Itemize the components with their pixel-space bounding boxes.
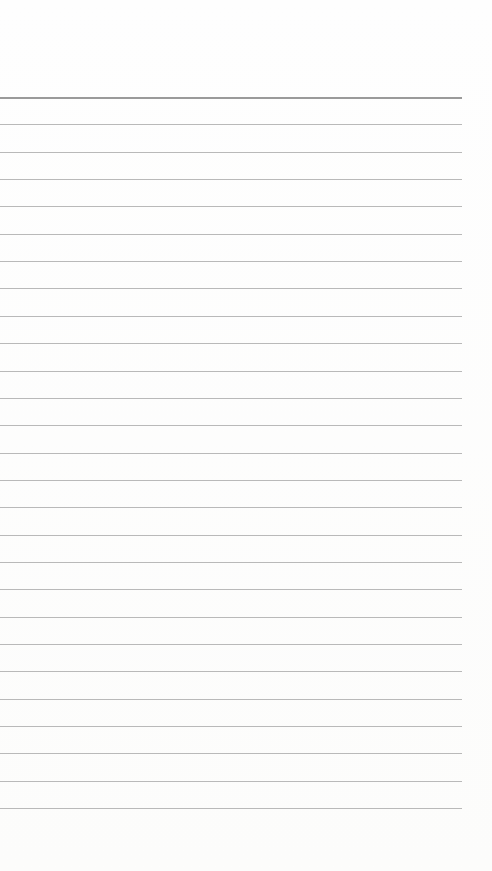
ruled-line	[0, 644, 462, 645]
ruled-line	[0, 371, 462, 372]
ruled-line	[0, 480, 462, 481]
ruled-line	[0, 808, 462, 809]
ruled-line	[0, 671, 462, 672]
ruled-line	[0, 781, 462, 782]
ruled-line	[0, 425, 462, 426]
ruled-line	[0, 699, 462, 700]
ruled-line	[0, 97, 462, 99]
ruled-line	[0, 617, 462, 618]
ruled-line	[0, 507, 462, 508]
ruled-line	[0, 316, 462, 317]
ruled-line	[0, 152, 462, 153]
ruled-line	[0, 535, 462, 536]
ruled-line	[0, 261, 462, 262]
ruled-line	[0, 562, 462, 563]
ruled-line	[0, 343, 462, 344]
ruled-line	[0, 288, 462, 289]
ruled-line	[0, 234, 462, 235]
ruled-line	[0, 124, 462, 125]
ruled-line	[0, 753, 462, 754]
ruled-line	[0, 589, 462, 590]
ruled-line	[0, 179, 462, 180]
ruled-line	[0, 726, 462, 727]
ruled-line	[0, 398, 462, 399]
ruled-line	[0, 206, 462, 207]
ruled-line	[0, 453, 462, 454]
ruled-page	[0, 0, 492, 871]
